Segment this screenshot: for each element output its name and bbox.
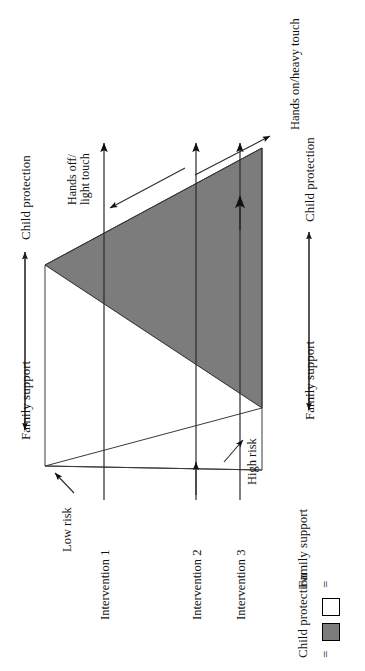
intervention-3-label: Intervention 3 [234,550,249,620]
right-axis-family-support-label: Family support [302,341,318,420]
hands-off-light-touch-label: Hands off/ light touch [66,153,91,205]
low-risk-pointer-arrow [55,473,74,493]
left-axis-family-support-label: Family support [18,361,34,440]
legend-swatch-child-protection [322,623,340,641]
high-risk-label: High risk [245,438,260,485]
hands-off-light-touch-line2: light touch [79,153,92,205]
low-risk-label: Low risk [60,507,75,552]
legend-swatch-family-support [322,598,340,616]
intervention-2-label: Intervention 2 [190,550,205,620]
hands-on-heavy-touch-label: Hands on/heavy touch [288,18,303,130]
legend-equals-family-support: = [318,581,334,588]
left-axis-child-protection-label: Child protection [18,155,34,240]
intervention-1-label: Intervention 1 [98,550,113,620]
legend-label-child-protection: Child protection [295,573,311,658]
right-axis-child-protection-label: Child protection [302,137,318,222]
hands-off-light-touch-line1: Hands off/ [66,153,79,205]
legend-equals-child-protection: = [318,651,334,658]
figure-canvas: Child protection Family support Child pr… [0,0,365,671]
